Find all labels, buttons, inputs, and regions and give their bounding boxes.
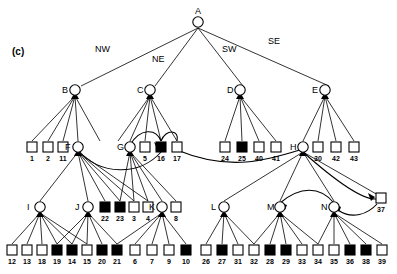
node-circle-D[interactable] — [235, 85, 245, 95]
internal-node-K[interactable]: K — [149, 202, 167, 212]
leaf-square-12[interactable] — [7, 245, 17, 255]
leaf-square-21[interactable] — [112, 245, 122, 255]
leaf-square-34[interactable] — [313, 245, 323, 255]
leaf-square-2[interactable] — [43, 142, 53, 152]
leaf-node-23[interactable]: 23 — [115, 202, 125, 222]
leaf-node-12[interactable]: 12 — [7, 245, 17, 265]
leaf-square-19[interactable] — [52, 245, 62, 255]
leaf-square-31[interactable] — [233, 245, 243, 255]
internal-node-D[interactable]: D — [227, 85, 245, 95]
leaf-square-22[interactable] — [100, 202, 110, 212]
leaf-node-21[interactable]: 21 — [112, 245, 122, 265]
leaf-node-42[interactable]: 42 — [331, 142, 341, 162]
node-circle-J[interactable] — [83, 202, 93, 212]
leaf-square-18[interactable] — [37, 245, 47, 255]
leaf-node-9[interactable]: 9 — [164, 245, 174, 265]
leaf-square-40[interactable] — [254, 142, 264, 152]
leaf-node-13[interactable]: 13 — [22, 245, 32, 265]
leaf-square-7[interactable] — [147, 245, 157, 255]
leaf-node-18[interactable]: 18 — [37, 245, 47, 265]
leaf-square-35[interactable] — [329, 245, 339, 255]
leaf-node-22[interactable]: 22 — [100, 202, 110, 222]
leaf-square-33[interactable] — [297, 245, 307, 255]
internal-node-M[interactable]: M — [267, 202, 285, 212]
leaf-node-8[interactable]: 8 — [171, 202, 181, 222]
node-circle-K[interactable] — [157, 202, 167, 212]
leaf-node-36[interactable]: 36 — [345, 245, 355, 265]
internal-node-C[interactable]: C — [137, 85, 155, 95]
leaf-node-20[interactable]: 20 — [97, 245, 107, 265]
leaf-square-32[interactable] — [249, 245, 259, 255]
leaf-node-2[interactable]: 2 — [43, 142, 53, 162]
leaf-node-30[interactable]: 30 — [313, 142, 323, 162]
leaf-square-29[interactable] — [281, 245, 291, 255]
leaf-square-13[interactable] — [22, 245, 32, 255]
leaf-node-6[interactable]: 6 — [130, 245, 140, 265]
leaf-node-3[interactable]: 3 — [129, 202, 139, 222]
node-circle-C[interactable] — [145, 85, 155, 95]
leaf-square-14[interactable] — [67, 245, 77, 255]
leaf-node-29[interactable]: 29 — [281, 245, 291, 265]
leaf-node-14[interactable]: 14 — [67, 245, 77, 265]
leaf-square-30[interactable] — [313, 142, 323, 152]
leaf-square-10[interactable] — [181, 245, 191, 255]
leaf-node-15[interactable]: 15 — [82, 245, 92, 265]
node-circle-B[interactable] — [70, 85, 80, 95]
leaf-square-16[interactable] — [156, 142, 166, 152]
leaf-square-43[interactable] — [349, 142, 359, 152]
leaf-node-32[interactable]: 32 — [249, 245, 259, 265]
leaf-square-36[interactable] — [345, 245, 355, 255]
leaf-square-15[interactable] — [82, 245, 92, 255]
leaf-node-41[interactable]: 41 — [271, 142, 281, 162]
leaf-square-24[interactable] — [220, 142, 230, 152]
leaf-square-27[interactable] — [217, 245, 227, 255]
node-circle-I[interactable] — [35, 202, 45, 212]
leaf-node-43[interactable]: 43 — [349, 142, 359, 162]
node-circle-G[interactable] — [125, 142, 135, 152]
leaf-node-26[interactable]: 26 — [201, 245, 211, 265]
leaf-node-31[interactable]: 31 — [233, 245, 243, 265]
internal-node-J[interactable]: J — [75, 202, 93, 212]
leaf-square-26[interactable] — [201, 245, 211, 255]
leaf-square-5[interactable] — [140, 142, 150, 152]
node-circle-F[interactable] — [73, 142, 83, 152]
leaf-node-1[interactable]: 1 — [27, 142, 37, 162]
leaf-square-38[interactable] — [361, 245, 371, 255]
leaf-node-27[interactable]: 27 — [217, 245, 227, 265]
leaf-node-25[interactable]: 25 — [237, 142, 247, 162]
leaf-node-33[interactable]: 33 — [297, 245, 307, 265]
leaf-node-34[interactable]: 34 — [313, 245, 323, 265]
node-circle-N[interactable] — [329, 202, 339, 212]
internal-node-L[interactable]: L — [211, 202, 229, 212]
leaf-node-28[interactable]: 28 — [265, 245, 275, 265]
leaf-square-1[interactable] — [27, 142, 37, 152]
node-circle-A[interactable] — [193, 17, 203, 27]
leaf-node-35[interactable]: 35 — [329, 245, 339, 265]
node-circle-L[interactable] — [219, 202, 229, 212]
leaf-node-5[interactable]: 5 — [140, 142, 150, 162]
leaf-square-39[interactable] — [377, 245, 387, 255]
node-circle-E[interactable] — [320, 85, 330, 95]
leaf-square-25[interactable] — [237, 142, 247, 152]
internal-node-H[interactable]: H — [290, 142, 308, 152]
internal-node-E[interactable]: E — [312, 85, 330, 95]
leaf-node-39[interactable]: 39 — [377, 245, 387, 265]
leaf-square-42[interactable] — [331, 142, 341, 152]
leaf-node-19[interactable]: 19 — [52, 245, 62, 265]
internal-node-N[interactable]: N — [321, 202, 339, 212]
leaf-square-28[interactable] — [265, 245, 275, 255]
leaf-node-10[interactable]: 10 — [181, 245, 191, 265]
leaf-square-17[interactable] — [172, 142, 182, 152]
internal-node-F[interactable]: F — [65, 142, 83, 152]
leaf-square-9[interactable] — [164, 245, 174, 255]
leaf-square-8[interactable] — [171, 202, 181, 212]
internal-node-B[interactable]: B — [62, 85, 80, 95]
node-circle-M[interactable] — [275, 202, 285, 212]
leaf-square-20[interactable] — [97, 245, 107, 255]
leaf-node-37[interactable]: 37 — [376, 193, 386, 213]
leaf-node-38[interactable]: 38 — [361, 245, 371, 265]
leaf-node-7[interactable]: 7 — [147, 245, 157, 265]
leaf-node-24[interactable]: 24 — [220, 142, 230, 162]
leaf-square-37[interactable] — [376, 193, 386, 203]
internal-node-G[interactable]: G — [117, 142, 135, 152]
